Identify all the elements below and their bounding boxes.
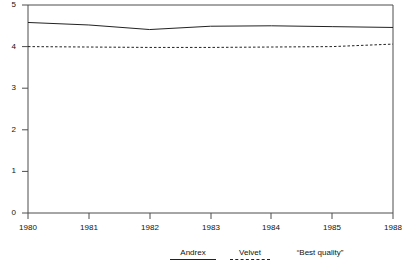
x-tick-label-1981: 1981 <box>69 223 109 233</box>
legend-item-andrex: Andrex <box>163 248 223 260</box>
y-axis-ticks <box>22 5 28 213</box>
legend-item-best-quality: “Best quality” <box>275 248 365 259</box>
dashed-line-swatch-icon <box>230 259 270 260</box>
x-tick-label-1982: 1982 <box>130 223 170 233</box>
y-tick-label-3: 3 <box>2 83 16 93</box>
y-tick-label-1: 1 <box>2 166 16 176</box>
x-tick-label-1988: 1988 <box>373 223 408 233</box>
solid-line-swatch-icon <box>170 259 216 260</box>
series-line-andrex <box>28 22 393 29</box>
legend-label-andrex: Andrex <box>163 248 223 258</box>
line-chart: 5 4 3 2 1 0 1980 1981 1982 1983 1984 198… <box>0 0 408 267</box>
x-tick-label-1985: 1985 <box>312 223 352 233</box>
y-tick-label-4: 4 <box>2 42 16 52</box>
y-tick-label-5: 5 <box>2 0 16 10</box>
y-tick-label-2: 2 <box>2 125 16 135</box>
x-tick-label-1980: 1980 <box>8 223 48 233</box>
x-tick-label-1984: 1984 <box>251 223 291 233</box>
y-tick-label-0: 0 <box>2 208 16 218</box>
x-tick-label-1983: 1983 <box>191 223 231 233</box>
legend-item-velvet: Velvet <box>220 248 280 260</box>
series-line-velvet <box>28 44 393 47</box>
chart-legend: Andrex Velvet “Best quality” <box>0 248 408 267</box>
axis-frame <box>28 5 393 213</box>
x-axis-ticks <box>28 213 393 219</box>
legend-label-velvet: Velvet <box>220 248 280 258</box>
legend-label-best-quality: “Best quality” <box>275 248 365 258</box>
